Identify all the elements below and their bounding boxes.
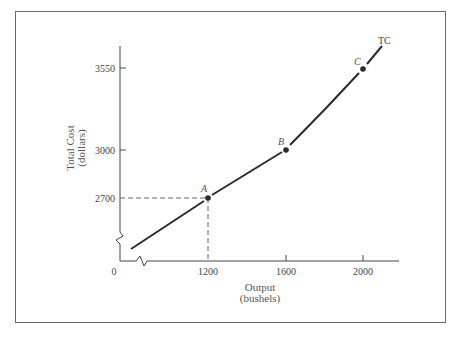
tc-curve [131, 46, 382, 249]
y-axis-title-line2: (dollars) [75, 129, 88, 167]
total-cost-chart: A B C TC 3550 3000 2700 0 1200 1600 2000… [0, 0, 458, 340]
y-axis-title: Total Cost (dollars) [64, 125, 88, 170]
point-c [360, 66, 366, 72]
x-tick-1600: 1600 [276, 266, 296, 277]
y-axis [116, 46, 123, 261]
x-axis [120, 256, 399, 266]
x-tick-2000: 2000 [353, 266, 373, 277]
x-tick-0: 0 [112, 266, 117, 277]
y-tick-2700: 2700 [95, 193, 115, 204]
x-axis-title-line2: (bushels) [240, 292, 281, 305]
point-c-label: C [354, 56, 361, 67]
y-ticks [120, 68, 126, 150]
point-b [283, 147, 289, 153]
point-a [205, 195, 211, 201]
point-b-label: B [278, 136, 284, 147]
curve-label-tc: TC [378, 35, 391, 46]
y-tick-3000: 3000 [95, 145, 115, 156]
x-ticks [286, 255, 363, 261]
y-tick-3550: 3550 [95, 63, 115, 74]
x-tick-1200: 1200 [198, 266, 218, 277]
point-a-label: A [200, 183, 208, 194]
